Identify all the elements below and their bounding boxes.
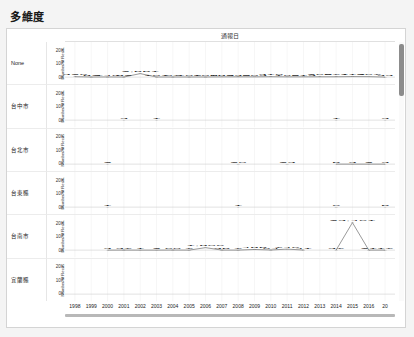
row-header-label: 宜蘭縣 [11,276,29,284]
y-axis-tick: 20K [56,90,64,95]
data-label: 3 [103,247,111,249]
x-axis-tick-label: 2007 [216,303,227,309]
row-header-label: 台北市 [11,146,29,154]
column-header: 通報日 [65,29,395,42]
y-axis-tick: 0K [58,204,64,209]
y-axis-tick: 0K [58,248,64,253]
data-label: 1 [136,247,144,249]
plot-panels-column: 32682140822,5511019710710818323020331019… [65,42,395,301]
x-axis-corner-right [395,301,405,327]
data-label: 33 [377,74,394,76]
y-axis-column: Number of Reco..20K10K0KNumber of Reco..… [47,42,65,301]
horizontal-scrollbar-thumb[interactable] [65,314,395,317]
y-axis-3: Number of Reco..20K10K0K [47,172,65,215]
y-axis-tick: 20K [56,134,64,139]
data-label: 1 [152,117,160,119]
data-label: 17 [377,247,394,249]
page-title: 多維度 [6,6,408,28]
data-label: 82 [115,74,132,76]
row-header-label: 台中市 [11,102,29,110]
y-axis-tick: 10K [56,191,64,196]
y-axis-4: Number of Reco..20K10K0K [47,215,65,258]
row-header-宜蘭縣[interactable]: 宜蘭縣 [7,259,47,301]
x-axis-tick-label: 2015 [347,303,358,309]
row-header-label: 台南市 [11,232,29,240]
data-label: 2 [152,247,160,249]
data-label: 3 [348,161,356,163]
x-axis-tick-label: 20 [382,303,388,309]
y-axis-tick: 20K [56,177,64,182]
x-axis-tick-label: 2009 [249,303,260,309]
y-axis-tick: 10K [56,234,64,239]
data-label: 37 [115,247,132,249]
y-axis-tick: 10K [56,277,64,282]
row-header-column: None台中市台北市台東縣台南市宜蘭縣 [7,42,47,301]
x-axis-tick-label: 2003 [151,303,162,309]
data-label: 1 [234,204,242,206]
x-axis-tick-label: 2000 [102,303,113,309]
data-label: 3 [120,117,128,119]
app-root: 多維度 通報日 None台中市台北市台東縣台南市宜蘭縣 Number of Re… [0,0,414,337]
data-label: 2 [103,161,111,163]
vertical-scrollbar-track[interactable] [399,42,404,301]
x-axis-tick-label: 2006 [200,303,211,309]
x-axis-tick-label: 2002 [135,303,146,309]
x-axis-tick-label: 2010 [265,303,276,309]
row-dimension-header [7,29,65,42]
row-header-台東縣[interactable]: 台東縣 [7,172,47,215]
y-axis-tick: 20K [56,264,64,269]
data-label: 5 [332,161,340,163]
data-label: 23 [279,161,296,163]
y-axis-tick: 20K [56,47,64,52]
y-axis-tick: 10K [56,147,64,152]
y-axis-tick: 0K [58,118,64,123]
x-axis-tick-label: 1998 [69,303,80,309]
data-label: 3 [381,161,389,163]
y-axis-0: Number of Reco..20K10K0K [47,42,65,85]
data-label: 3 [381,117,389,119]
x-axis-tick-label: 2005 [184,303,195,309]
data-label: 35 [213,247,230,249]
y-axis-1: Number of Reco..20K10K0K [47,85,65,128]
x-axis-tick-label: 2011 [282,303,293,309]
data-label: 1 [332,117,340,119]
x-axis-tick-label: 2016 [363,303,374,309]
y-axis-tick: 0K [58,291,64,296]
plot-panel-台南市[interactable]: 337126071,80635748594746413723,4612117 [65,215,395,258]
row-header-台南市[interactable]: 台南市 [7,215,47,258]
row-header-台北市[interactable]: 台北市 [7,129,47,172]
y-axis-tick: 10K [56,104,64,109]
row-header-label: None [11,60,24,66]
data-label: 60 [164,247,181,249]
plot-panel-台中市[interactable]: 3113 [65,85,395,128]
x-axis-tick-label: 2001 [118,303,129,309]
plot-panel-台東縣[interactable]: 1165 [65,172,395,215]
data-label: 21 [360,247,377,249]
x-axis-tick-label: 2012 [298,303,309,309]
x-axis-tick-label: 1999 [86,303,97,309]
viz-grid: 通報日 None台中市台北市台東縣台南市宜蘭縣 Number of Reco..… [7,29,405,327]
y-axis-tick: 20K [56,220,64,225]
vertical-scroll-area[interactable] [395,42,405,301]
data-label: 5 [381,204,389,206]
x-axis-tick-label: 2013 [314,303,325,309]
row-header-台中市[interactable]: 台中市 [7,85,47,128]
data-label: 2,551 [121,71,159,73]
x-axis: 1998199920002001200220032004200520062007… [65,301,395,327]
x-axis-tick-label: 2008 [233,303,244,309]
data-label: 7 [185,247,193,249]
plot-panel-台北市[interactable]: 220235323 [65,129,395,172]
plot-panel-宜蘭縣[interactable] [65,259,395,301]
data-label: 6 [332,204,340,206]
data-label: 41 [295,247,312,249]
row-header-label: 台東縣 [11,189,29,197]
vertical-scrollbar-thumb[interactable] [399,44,404,96]
header-corner-right [395,29,405,42]
plot-panel-none[interactable]: 32682140822,5511019710710818323020331019… [65,42,395,85]
visualization-frame: 通報日 None台中市台北市台東縣台南市宜蘭縣 Number of Reco..… [6,28,406,328]
y-axis-5: Number of Reco..20K10K0K [47,259,65,301]
x-axis-tick-label: 2014 [331,303,342,309]
row-header-none[interactable]: None [7,42,47,85]
data-label: 1 [103,204,111,206]
y-axis-2: Number of Reco..20K10K0K [47,129,65,172]
